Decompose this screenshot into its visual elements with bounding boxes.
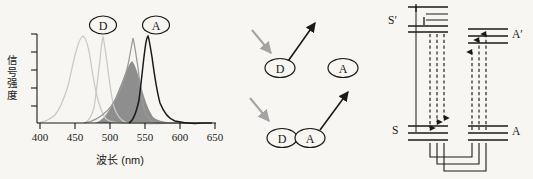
node-acceptor-adjacent: A (295, 129, 325, 148)
schematic-svg: D A D A (240, 0, 390, 179)
x-axis-tick-labels: 400 450 500 550 600 650 (32, 131, 224, 143)
fret-figure: 信号强度 (0, 0, 533, 179)
emission-arrow-separated (286, 23, 315, 64)
level-label-acceptor-ground: A (512, 125, 521, 137)
annotation-badge-donor: D (90, 16, 117, 34)
y-axis-ticks (31, 34, 37, 106)
acceptor-excitation-dashed-transitions (472, 34, 486, 130)
x-tick-label: 600 (172, 131, 189, 143)
level-group-acceptor-ground (468, 126, 508, 140)
level-group-acceptor-excited (468, 29, 508, 43)
node-acceptor-adjacent-label: A (306, 132, 315, 146)
node-acceptor-separated: A (328, 59, 358, 78)
node-donor-separated: D (265, 59, 295, 78)
panel-jablonski-energy-diagram: S′ S A′ (386, 0, 533, 179)
donor-emission-dashed-transitions (430, 34, 444, 128)
excitation-arrow-adjacent (250, 98, 269, 121)
node-donor-adjacent-label: D (278, 132, 287, 146)
x-tick-label: 400 (32, 131, 49, 143)
level-label-acceptor-excited: A′ (512, 28, 523, 40)
node-donor-separated-label: D (276, 62, 285, 76)
node-acceptor-separated-label: A (339, 62, 348, 76)
node-donor-adjacent: D (267, 129, 297, 148)
panel-spectral-overlap-chart: 信号强度 (0, 0, 240, 179)
x-axis-label: 波长 (nm) (40, 150, 200, 168)
level-group-donor-excited (408, 7, 448, 32)
coupling-brackets (430, 143, 486, 171)
annotation-badge-acceptor-label: A (152, 19, 161, 33)
excitation-arrow-separated (252, 30, 271, 53)
annotation-badge-acceptor: A (143, 16, 170, 34)
x-tick-label: 450 (67, 131, 84, 143)
x-tick-label: 550 (137, 131, 154, 143)
level-group-donor-ground (408, 126, 448, 140)
x-axis-label-text: 波长 (nm) (96, 154, 144, 166)
level-label-donor-excited: S′ (388, 14, 397, 26)
energy-diagram-svg: S′ S A′ (386, 0, 533, 179)
x-tick-label: 500 (102, 131, 119, 143)
annotation-badge-donor-label: D (99, 19, 108, 33)
panel-donor-acceptor-schematic: D A D A (240, 0, 390, 179)
x-tick-label: 650 (207, 131, 224, 143)
emission-arrow-adjacent (320, 92, 348, 130)
level-label-donor-ground: S (392, 124, 398, 136)
